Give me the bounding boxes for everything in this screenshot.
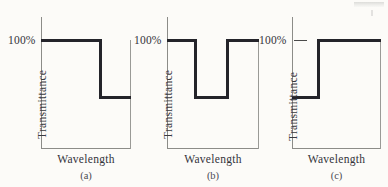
right-edge-c	[380, 40, 381, 149]
y-tick-mark-100-c	[294, 40, 307, 41]
y-axis-label-c: Transmittance	[287, 72, 299, 141]
figure-three-filter-transmittance-plots: 100% Transmittance Wavelength (a) 100% T…	[0, 0, 388, 187]
y-tick-label-100-c: 100%	[259, 34, 287, 46]
panel-caption-c: (c)	[292, 170, 381, 181]
x-axis-c	[292, 148, 381, 149]
curve-c-step-up-edge	[317, 39, 320, 99]
scan-edge-artifact	[354, 2, 384, 7]
curve-c-high-plateau	[317, 39, 381, 42]
x-axis-label-c: Wavelength	[292, 153, 381, 165]
plot-panel-c: 100% Transmittance Wavelength (c)	[0, 0, 388, 187]
scan-edge-artifact-mark	[371, 10, 373, 16]
